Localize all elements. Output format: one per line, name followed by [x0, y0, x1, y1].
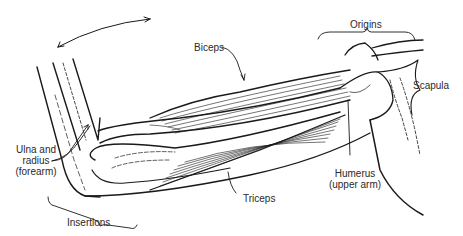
label-origins: Origins	[350, 19, 382, 30]
label-biceps: Biceps	[194, 42, 224, 53]
label-insertions: Insertions	[67, 217, 110, 228]
motion-arrow	[58, 19, 150, 47]
arm-muscle-diagram: Biceps Origins Scapula Ulna and radius (…	[0, 0, 463, 236]
label-ulna-radius: Ulna and radius (forearm)	[13, 144, 59, 177]
label-humerus-line2: (upper arm)	[325, 179, 385, 190]
label-triceps: Triceps	[243, 193, 275, 204]
label-ulna-line2: radius	[13, 155, 59, 166]
label-humerus-line1: Humerus	[325, 168, 385, 179]
label-ulna-line1: Ulna and	[13, 144, 59, 155]
label-ulna-line3: (forearm)	[13, 166, 59, 177]
triceps-leader	[228, 172, 236, 193]
label-humerus: Humerus (upper arm)	[325, 168, 385, 190]
label-scapula: Scapula	[413, 80, 449, 91]
humerus-leader	[348, 100, 350, 155]
arm-illustration	[0, 0, 463, 236]
